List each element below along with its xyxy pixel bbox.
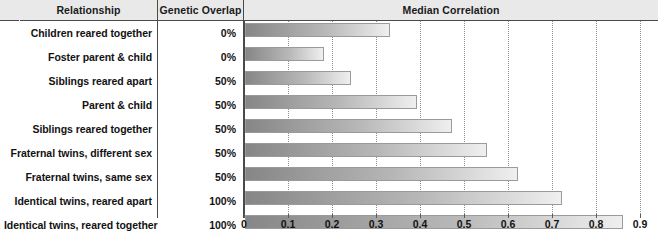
row-label-relationship: Siblings reared together xyxy=(4,117,152,141)
table-row: Parent & child50% xyxy=(0,93,658,117)
row-value-genetic-overlap: 50% xyxy=(158,141,236,165)
row-value-genetic-overlap: 0% xyxy=(158,21,236,45)
x-axis-tick-mark xyxy=(552,214,553,218)
column-header-genetic-overlap: Genetic Overlap xyxy=(158,0,243,20)
x-axis-tick-label: 0.4 xyxy=(400,218,440,230)
row-label-relationship: Parent & child xyxy=(4,93,152,117)
row-label-relationship: Fraternal twins, same sex xyxy=(4,165,152,189)
x-axis-tick-mark xyxy=(244,214,245,218)
row-label-relationship: Fraternal twins, different sex xyxy=(4,141,152,165)
row-value-genetic-overlap: 100% xyxy=(158,189,236,213)
x-axis-tick-mark xyxy=(464,214,465,218)
row-value-genetic-overlap: 50% xyxy=(158,69,236,93)
x-axis-tick-mark xyxy=(376,214,377,218)
x-axis-tick-label: 0.6 xyxy=(488,218,528,230)
table-header-row: Relationship Genetic Overlap Median Corr… xyxy=(0,0,658,21)
row-label-relationship: Identical twins, reared together xyxy=(4,213,152,237)
x-axis-tick-mark xyxy=(288,214,289,218)
column-header-median-correlation: Median Correlation xyxy=(244,0,658,20)
x-axis-tick-label: 0.9 xyxy=(620,218,658,230)
x-axis-tick-mark xyxy=(420,214,421,218)
row-label-relationship: Foster parent & child xyxy=(4,45,152,69)
column-header-relationship: Relationship xyxy=(20,0,157,20)
row-label-relationship: Siblings reared apart xyxy=(4,69,152,93)
x-axis-tick-mark xyxy=(508,214,509,218)
table-row: Fraternal twins, same sex50% xyxy=(0,165,658,189)
x-axis-tick-label: 0 xyxy=(224,218,264,230)
table-row: Siblings reared together50% xyxy=(0,117,658,141)
table-row: Identical twins, reared apart100% xyxy=(0,189,658,213)
row-value-genetic-overlap: 50% xyxy=(158,117,236,141)
table-row: Fraternal twins, different sex50% xyxy=(0,141,658,165)
x-axis-tick-label: 0.3 xyxy=(356,218,396,230)
table-body: Children reared together0%Foster parent … xyxy=(0,21,658,222)
x-axis: 00.10.20.30.40.50.60.70.80.9 xyxy=(244,218,658,238)
table-row: Children reared together0% xyxy=(0,21,658,45)
median-correlation-table-chart: Relationship Genetic Overlap Median Corr… xyxy=(0,0,658,247)
table-row: Siblings reared apart50% xyxy=(0,69,658,93)
table-row: Foster parent & child0% xyxy=(0,45,658,69)
row-label-relationship: Identical twins, reared apart xyxy=(4,189,152,213)
x-axis-tick-label: 0.8 xyxy=(576,218,616,230)
row-value-genetic-overlap: 50% xyxy=(158,93,236,117)
x-axis-tick-mark xyxy=(596,214,597,218)
row-label-relationship: Children reared together xyxy=(4,21,152,45)
x-axis-tick-label: 0.7 xyxy=(532,218,572,230)
row-value-genetic-overlap: 0% xyxy=(158,45,236,69)
x-axis-tick-mark xyxy=(640,214,641,218)
x-axis-tick-label: 0.1 xyxy=(268,218,308,230)
x-axis-tick-label: 0.5 xyxy=(444,218,484,230)
row-value-genetic-overlap: 50% xyxy=(158,165,236,189)
x-axis-tick-mark xyxy=(332,214,333,218)
x-axis-tick-label: 0.2 xyxy=(312,218,352,230)
